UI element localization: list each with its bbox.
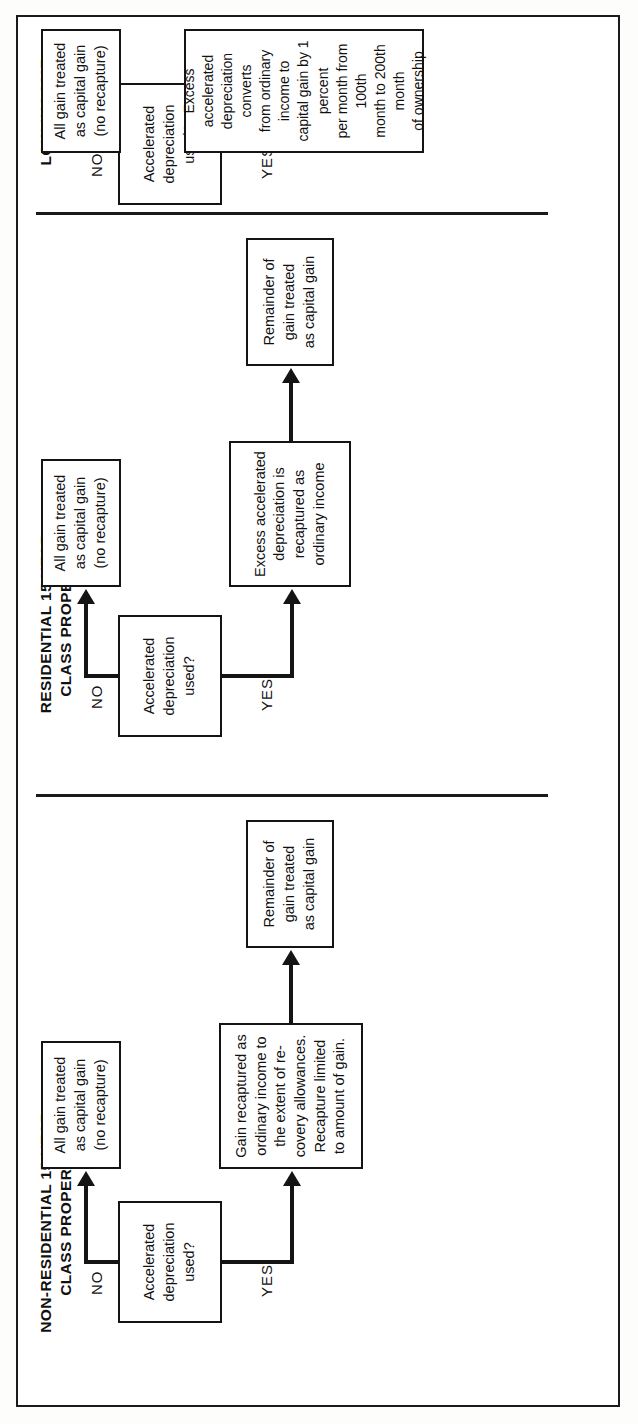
connector-no-horizontal-non-residential [84,1184,88,1264]
outcome-box-no-residential: All gain treated as capital gain (no rec… [41,459,121,587]
connector-yes-horizontal-non-residential [290,1184,294,1264]
connector-no-vertical-non-residential [84,1260,120,1264]
branch-label-yes-residential: YES [258,678,275,711]
outcome-box-yes-non-residential: Gain recaptured as ordinary income to th… [219,1023,363,1169]
page-frame: NON-RESIDENTIAL 15-YEAR CLASS PROPERTY A… [16,15,620,1407]
connector-yes-horizontal-residential [290,602,294,678]
arrowhead-final-residential [282,368,300,383]
final-outcome-box-residential: Remainder of gain treated as capital gai… [246,238,334,366]
connector-final-non-residential [289,963,293,1023]
connector-final-residential [289,381,293,441]
arrowhead-final-non-residential [282,950,300,965]
branch-label-no-low-income-housing: NO [88,153,105,178]
flowchart-canvas: NON-RESIDENTIAL 15-YEAR CLASS PROPERTY A… [22,21,614,1401]
decision-box-residential: Accelerated depreciation used? [118,615,222,737]
outcome-box-yes-low-income-housing: Excess accelerated depreciation converts… [184,29,424,153]
outcome-box-no-non-residential: All gain treated as capital gain (no rec… [41,1041,121,1169]
section-divider-2 [36,212,548,215]
outcome-box-yes-residential: Excess accelerated depreciation is recap… [229,441,351,587]
connector-yes-vertical-residential [220,674,294,678]
connector-yes-vertical-non-residential [220,1260,294,1264]
arrowhead-yes-non-residential [283,1171,301,1186]
final-outcome-box-non-residential: Remainder of gain treated as capital gai… [246,820,334,948]
branch-label-yes-non-residential: YES [258,1264,275,1297]
branch-label-no-non-residential: NO [88,1271,105,1296]
outcome-box-no-low-income-housing: All gain treated as capital gain (no rec… [41,29,121,153]
decision-box-non-residential: Accelerated depreciation used? [118,1201,222,1323]
connector-no-vertical-residential [84,674,120,678]
rotated-chart-wrapper: NON-RESIDENTIAL 15-YEAR CLASS PROPERTY A… [22,21,614,1401]
section-divider-1 [36,794,548,797]
arrowhead-no-non-residential [77,1171,95,1186]
branch-label-no-residential: NO [88,685,105,710]
arrowhead-yes-residential [283,589,301,604]
arrowhead-no-residential [77,589,95,604]
connector-no-horizontal-residential [84,602,88,678]
